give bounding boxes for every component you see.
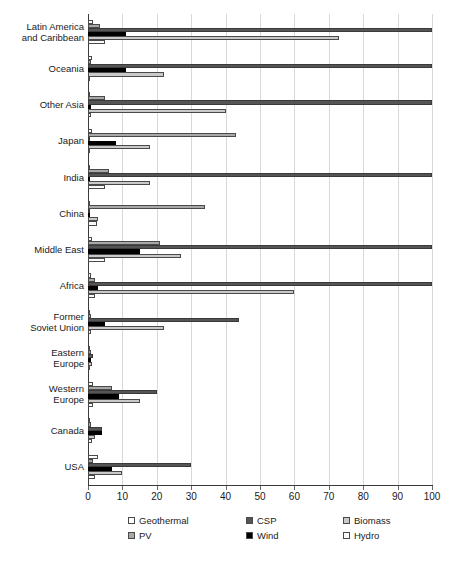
bar-csp bbox=[88, 64, 432, 68]
bar-biomass bbox=[88, 399, 140, 403]
legend-swatch-wind bbox=[246, 532, 253, 539]
bar-biomass bbox=[88, 326, 164, 330]
y-axis-category-label: Japan bbox=[0, 135, 84, 146]
bar-csp bbox=[88, 245, 432, 249]
y-axis-category-label: Latin America and Caribbean bbox=[0, 21, 84, 43]
legend-label: Geothermal bbox=[139, 515, 189, 526]
bar-group bbox=[88, 340, 432, 376]
bar-csp bbox=[88, 318, 239, 322]
bar-group bbox=[88, 376, 432, 412]
bar-group bbox=[88, 304, 432, 340]
bar-hydro bbox=[88, 40, 105, 44]
bar-group bbox=[88, 449, 432, 485]
y-axis-labels: Latin America and CaribbeanOceaniaOther … bbox=[0, 14, 84, 485]
plot-area bbox=[88, 14, 432, 485]
x-axis-tick bbox=[157, 486, 158, 490]
bar-hydro bbox=[88, 113, 91, 117]
bar-biomass bbox=[88, 36, 339, 40]
legend-item-csp[interactable]: CSP bbox=[246, 515, 277, 526]
x-axis-tick-label: 10 bbox=[117, 491, 128, 502]
bar-group bbox=[88, 159, 432, 195]
y-axis-category-label: Oceania bbox=[0, 63, 84, 74]
bar-group bbox=[88, 413, 432, 449]
x-axis-tick-label: 0 bbox=[85, 491, 91, 502]
bar-hydro bbox=[88, 439, 92, 443]
x-axis-tick bbox=[260, 486, 261, 490]
x-axis-tick-label: 40 bbox=[220, 491, 231, 502]
gridline bbox=[432, 14, 433, 485]
x-axis-tick-label: 30 bbox=[186, 491, 197, 502]
legend-label: Wind bbox=[257, 530, 279, 541]
legend-label: Biomass bbox=[354, 515, 390, 526]
bar-hydro bbox=[88, 149, 90, 153]
bar-chart: Latin America and CaribbeanOceaniaOther … bbox=[0, 0, 449, 561]
bar-group bbox=[88, 86, 432, 122]
y-axis-category-label: China bbox=[0, 208, 84, 219]
legend-label: CSP bbox=[257, 515, 277, 526]
bar-csp bbox=[88, 173, 432, 177]
legend-swatch-pv bbox=[128, 532, 135, 539]
y-axis-category-label: Africa bbox=[0, 280, 84, 291]
bar-group bbox=[88, 195, 432, 231]
legend-swatch-biomass bbox=[343, 517, 350, 524]
bar-hydro bbox=[88, 77, 90, 81]
bar-csp bbox=[88, 100, 432, 104]
x-axis-tick-label: 60 bbox=[289, 491, 300, 502]
bar-csp bbox=[88, 28, 432, 32]
legend-item-hydro[interactable]: Hydro bbox=[343, 530, 379, 541]
x-axis-labels: 0102030405060708090100 bbox=[0, 491, 449, 507]
legend-swatch-geothermal bbox=[128, 517, 135, 524]
bar-group bbox=[88, 123, 432, 159]
bar-hydro bbox=[88, 403, 93, 407]
bar-biomass bbox=[88, 72, 164, 76]
bar-group bbox=[88, 14, 432, 50]
legend-label: PV bbox=[139, 530, 152, 541]
bar-group bbox=[88, 231, 432, 267]
legend-item-pv[interactable]: PV bbox=[128, 530, 152, 541]
bar-csp bbox=[88, 282, 432, 286]
bar-hydro bbox=[88, 258, 105, 262]
x-axis-tick bbox=[294, 486, 295, 490]
y-axis-category-label: Middle East bbox=[0, 244, 84, 255]
legend-item-wind[interactable]: Wind bbox=[246, 530, 279, 541]
bar-biomass bbox=[88, 109, 226, 113]
bar-pv bbox=[88, 205, 205, 209]
bar-group bbox=[88, 268, 432, 304]
x-axis-tick bbox=[226, 486, 227, 490]
y-axis-category-label: USA bbox=[0, 461, 84, 472]
bar-hydro bbox=[88, 475, 95, 479]
legend-swatch-hydro bbox=[343, 532, 350, 539]
y-axis-category-label: India bbox=[0, 172, 84, 183]
y-axis-category-label: Canada bbox=[0, 425, 84, 436]
x-axis-tick-label: 100 bbox=[424, 491, 441, 502]
bar-hydro bbox=[88, 366, 90, 370]
x-axis-tick-label: 50 bbox=[254, 491, 265, 502]
legend-swatch-csp bbox=[246, 517, 253, 524]
legend-item-biomass[interactable]: Biomass bbox=[343, 515, 390, 526]
legend-label: Hydro bbox=[354, 530, 379, 541]
y-axis-category-label: Former Soviet Union bbox=[0, 311, 84, 333]
y-axis-category-label: Other Asia bbox=[0, 99, 84, 110]
x-axis-tick bbox=[191, 486, 192, 490]
bar-hydro bbox=[88, 185, 105, 189]
x-axis-tick-label: 20 bbox=[151, 491, 162, 502]
x-axis-tick-label: 80 bbox=[358, 491, 369, 502]
x-axis-tick-label: 90 bbox=[392, 491, 403, 502]
bar-pv bbox=[88, 133, 236, 137]
y-axis-category-label: Eastern Europe bbox=[0, 347, 84, 369]
bar-hydro bbox=[88, 294, 95, 298]
bar-group bbox=[88, 50, 432, 86]
y-axis-category-label: Western Europe bbox=[0, 383, 84, 405]
x-axis-tick bbox=[398, 486, 399, 490]
bar-biomass bbox=[88, 290, 294, 294]
bar-hydro bbox=[88, 330, 91, 334]
x-axis-tick bbox=[329, 486, 330, 490]
bar-biomass bbox=[88, 145, 150, 149]
x-axis-tick bbox=[88, 486, 89, 490]
legend-item-geothermal[interactable]: Geothermal bbox=[128, 515, 189, 526]
chart-legend: GeothermalPVCSPWindBiomassHydro bbox=[128, 515, 438, 549]
x-axis-tick bbox=[432, 486, 433, 490]
x-axis-tick-label: 70 bbox=[323, 491, 334, 502]
x-axis-tick bbox=[122, 486, 123, 490]
x-axis-tick bbox=[363, 486, 364, 490]
